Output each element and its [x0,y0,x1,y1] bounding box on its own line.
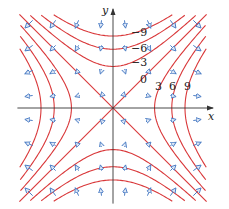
gradient-vector [124,45,125,50]
gradient-vector [193,119,200,120]
gradient-vector [124,142,125,145]
gradient-vector [100,20,101,27]
gradient-vector [170,70,175,73]
gradient-vector [147,95,150,96]
gradient-vector [100,165,101,170]
gradient-vector [25,119,32,120]
gradient-vector [170,119,175,120]
gradient-vector [100,70,101,73]
gradient-vector [147,45,150,50]
gradient-vector [147,20,150,27]
gradient-vector [75,20,78,27]
gradient-field-diagram: x y −9−6−30369 [0,0,229,209]
gradient-vector [124,70,125,73]
gradient-vector [75,45,78,50]
x-axis-label: x [208,110,215,123]
gradient-vector [25,142,32,145]
gradient-vector [50,95,55,96]
gradient-vector [124,165,125,170]
gradient-vector [25,70,32,73]
gradient-vector [50,188,55,195]
level-label-3: 3 [155,80,162,93]
gradient-vector [25,95,32,96]
gradient-vector [124,188,125,195]
gradient-vector [124,20,125,27]
gradient-vector [75,119,78,120]
gradient-vector [100,45,101,50]
level-label-0: 0 [140,73,147,86]
gradient-vector [50,142,55,145]
gradient-vector [50,70,55,73]
gradient-vector [170,142,175,145]
gradient-vector [50,20,55,27]
gradient-vector [193,142,200,145]
y-axis-label: y [101,4,109,17]
gradient-vector [193,45,200,50]
gradient-vector [50,119,55,120]
gradient-vector [170,20,175,27]
gradient-vector [100,142,101,145]
level-label-6: 6 [169,80,176,93]
gradient-vector [100,188,101,195]
gradient-vector [193,70,200,73]
level-label--9: −9 [131,26,147,39]
level-label--6: −6 [131,42,147,55]
level-label-9: 9 [184,80,191,93]
gradient-vector [193,95,200,96]
gradient-vector [147,188,150,195]
gradient-vector [75,95,78,96]
level-label--3: −3 [131,56,147,69]
gradient-vector [147,165,150,170]
gradient-vector [170,188,175,195]
gradient-vector [147,119,150,120]
gradient-vector [193,165,200,170]
gradient-vector [75,188,78,195]
gradient-vector [25,45,32,50]
gradient-vector [75,165,78,170]
gradient-vector [170,95,175,96]
gradient-vector [25,165,32,170]
